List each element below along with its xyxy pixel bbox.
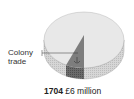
caption-year: 1704 [44,86,63,96]
chart-caption: 1704 £6 million [44,86,101,96]
caption-value: £6 million [65,86,101,96]
colony-label: Colony trade [8,48,33,66]
colony-label-line2: trade [8,57,33,66]
colony-label-line1: Colony [8,48,33,57]
